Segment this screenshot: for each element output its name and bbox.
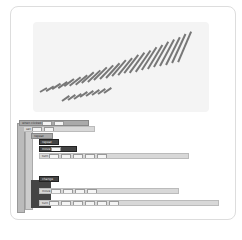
code-block[interactable]: set bbox=[23, 126, 95, 132]
value-slot[interactable] bbox=[85, 154, 95, 159]
block-label: turn bbox=[42, 154, 48, 158]
value-slot[interactable] bbox=[61, 154, 71, 159]
code-block[interactable]: move bbox=[39, 188, 179, 194]
value-slot[interactable] bbox=[75, 189, 85, 194]
value-slot[interactable] bbox=[51, 147, 61, 152]
code-block[interactable]: turn bbox=[39, 200, 219, 206]
value-slot[interactable] bbox=[49, 201, 59, 206]
block-label: move bbox=[42, 147, 50, 151]
code-block[interactable]: move bbox=[39, 146, 77, 152]
stage-render bbox=[33, 22, 209, 112]
value-slot[interactable] bbox=[87, 189, 97, 194]
value-slot[interactable] bbox=[44, 127, 54, 132]
script-bracket bbox=[17, 123, 25, 213]
block-label: set bbox=[26, 127, 31, 131]
value-slot[interactable] bbox=[63, 189, 73, 194]
value-slot[interactable] bbox=[85, 201, 95, 206]
block-label: turn bbox=[42, 201, 48, 205]
value-slot[interactable] bbox=[97, 201, 107, 206]
block-label: repeat bbox=[42, 140, 52, 144]
code-block[interactable]: change bbox=[39, 176, 59, 182]
block-label: move bbox=[42, 189, 50, 193]
code-block[interactable]: repeat bbox=[39, 139, 59, 145]
value-slot[interactable] bbox=[49, 154, 59, 159]
value-slot[interactable] bbox=[109, 201, 119, 206]
code-block[interactable]: turn bbox=[39, 153, 189, 159]
block-label: change bbox=[42, 177, 53, 181]
value-slot[interactable] bbox=[73, 201, 83, 206]
block-label: when clicked bbox=[22, 121, 41, 125]
code-area: when clickedsetrepeatrepeatmoveturnchang… bbox=[17, 120, 222, 215]
value-slot[interactable] bbox=[32, 127, 42, 132]
value-slot[interactable] bbox=[73, 154, 83, 159]
value-slot[interactable] bbox=[51, 189, 61, 194]
block-label: repeat bbox=[34, 134, 44, 138]
value-slot[interactable] bbox=[61, 201, 71, 206]
value-slot[interactable] bbox=[97, 154, 107, 159]
